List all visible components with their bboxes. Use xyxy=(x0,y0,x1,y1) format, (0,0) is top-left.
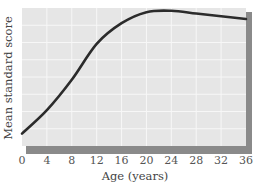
x-tick-label: 0 xyxy=(19,154,26,167)
x-tick-label: 12 xyxy=(90,154,104,167)
x-tick-label: 8 xyxy=(68,154,75,167)
x-tick-label: 32 xyxy=(214,154,228,167)
x-axis-ticks: 04812162024283236 xyxy=(19,154,254,167)
x-tick-label: 16 xyxy=(115,154,129,167)
x-tick-label: 28 xyxy=(189,154,203,167)
x-tick-label: 36 xyxy=(239,154,253,167)
plot-area xyxy=(22,8,252,154)
x-tick-label: 24 xyxy=(164,154,178,167)
x-axis-label: Age (years) xyxy=(101,169,169,183)
line-chart: 04812162024283236 Age (years) Mean stand… xyxy=(0,0,260,184)
y-axis-label: Mean standard score xyxy=(1,16,15,140)
x-tick-label: 4 xyxy=(43,154,50,167)
x-tick-label: 20 xyxy=(139,154,153,167)
